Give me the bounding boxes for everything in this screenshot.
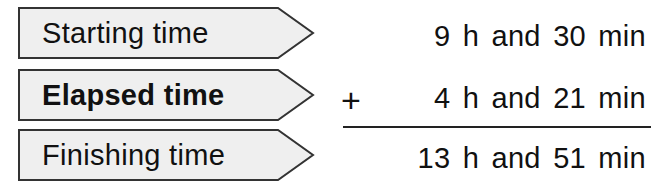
finishing-time-value: 13 h and 51 min: [418, 142, 646, 175]
finishing-time-label: Finishing time: [42, 129, 225, 181]
elapsed-time-label: Elapsed time: [42, 69, 225, 121]
finishing-time-arrow-label: Finishing time: [18, 129, 314, 181]
plus-operator: +: [341, 80, 361, 120]
starting-time-arrow-label: Starting time: [18, 7, 314, 59]
elapsed-time-arrow-label: Elapsed time: [18, 69, 314, 121]
starting-time-value: 9 h and 30 min: [434, 20, 646, 53]
sum-rule-line: [343, 126, 651, 128]
starting-time-label: Starting time: [42, 7, 209, 59]
elapsed-time-value: 4 h and 21 min: [434, 82, 646, 115]
